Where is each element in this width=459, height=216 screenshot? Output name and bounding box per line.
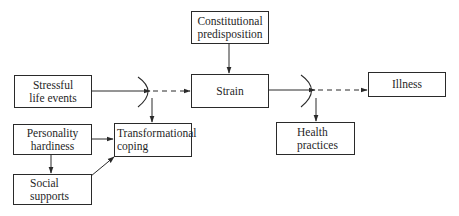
node-label-line2: practices xyxy=(297,139,338,152)
node-label-line2: predisposition xyxy=(197,28,262,41)
node-label-line2: life events xyxy=(29,92,77,105)
node-label-line2: hardiness xyxy=(31,140,74,153)
node-label-line1: Health xyxy=(297,126,328,139)
node-social-supports: Social supports xyxy=(13,174,92,205)
node-personality-hardiness: Personality hardiness xyxy=(13,124,92,155)
node-label-line2: coping xyxy=(117,140,148,153)
node-illness: Illness xyxy=(368,72,446,97)
node-constitutional-predisposition: Constitutional predisposition xyxy=(191,11,269,44)
node-stressful-life-events: Stressful life events xyxy=(14,75,92,108)
node-strain: Strain xyxy=(191,74,269,108)
moderator-bracket-1 xyxy=(138,77,148,107)
moderator-bracket-2 xyxy=(301,75,312,107)
node-transformational-coping: Transformational coping xyxy=(114,123,192,157)
node-label-line1: Stressful xyxy=(33,79,73,92)
node-label-line1: Transformational xyxy=(117,127,196,140)
arrow-social-to-coping xyxy=(91,157,114,176)
node-label-line2: supports xyxy=(30,190,69,203)
node-label-line1: Personality xyxy=(27,127,79,140)
node-health-practices: Health practices xyxy=(276,122,355,155)
node-label-line1: Strain xyxy=(216,85,243,98)
hardiness-model-diagram: Constitutional predisposition Stressful … xyxy=(0,0,459,216)
node-label-line1: Constitutional xyxy=(197,15,262,28)
node-label-line1: Illness xyxy=(392,78,422,91)
node-label-line1: Social xyxy=(30,177,59,190)
